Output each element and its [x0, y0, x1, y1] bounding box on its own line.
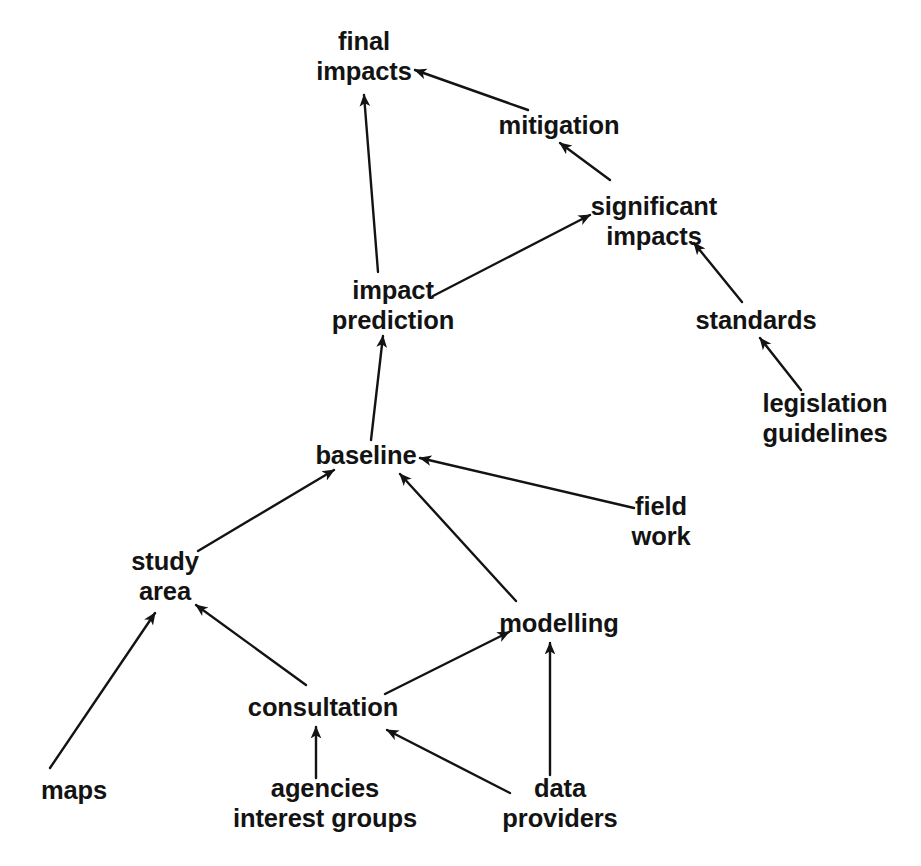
node-maps[interactable]: maps [41, 775, 107, 805]
node-mitigation[interactable]: mitigation [499, 110, 620, 140]
node-label-line1: data [534, 774, 586, 802]
node-study-area[interactable]: study area [131, 546, 199, 606]
edge-field-work-to-baseline [420, 458, 634, 508]
edge-mitigation-to-final-impacts [415, 70, 528, 110]
edge-baseline-to-impact-prediction [371, 336, 383, 440]
node-consultation[interactable]: consultation [248, 692, 398, 722]
node-label-line1: agencies [271, 774, 379, 802]
edge-consultation-to-modelling [385, 632, 509, 694]
node-label-line1: study [131, 547, 199, 575]
edge-consultation-to-study-area [196, 605, 306, 685]
node-impact-prediction[interactable]: impact prediction [332, 275, 454, 335]
node-label-line1: standards [696, 306, 817, 334]
node-label-line2: impacts [316, 56, 412, 86]
edge-study-area-to-baseline [198, 470, 334, 551]
edge-modelling-to-baseline [400, 474, 516, 601]
node-label-line1: mitigation [499, 111, 620, 139]
node-final-impacts[interactable]: final impacts [316, 26, 412, 86]
node-label-line2: prediction [332, 305, 454, 335]
node-data-providers[interactable]: data providers [502, 773, 617, 833]
diagram-canvas: final impacts mitigation significant imp… [0, 0, 921, 866]
node-label-line2: area [131, 576, 199, 606]
node-label-line1: legislation [762, 389, 887, 417]
node-label-line2: impacts [591, 221, 717, 251]
node-label-line1: final [338, 27, 390, 55]
node-label-line1: maps [41, 776, 107, 804]
node-agencies-interest-groups[interactable]: agencies interest groups [233, 773, 417, 833]
node-baseline[interactable]: baseline [315, 440, 416, 470]
node-label-line1: significant [591, 192, 717, 220]
node-label-line1: baseline [315, 441, 416, 469]
edge-maps-to-study-area [50, 613, 155, 768]
node-legislation-guidelines[interactable]: legislation guidelines [762, 388, 887, 448]
node-label-line2: work [631, 521, 690, 551]
node-modelling[interactable]: modelling [499, 608, 619, 638]
node-significant-impacts[interactable]: significant impacts [591, 191, 717, 251]
node-label-line2: providers [502, 803, 617, 833]
node-label-line1: impact [352, 276, 434, 304]
node-label-line1: consultation [248, 693, 398, 721]
edge-legislation-to-standards [760, 338, 801, 390]
node-label-line1: modelling [499, 609, 619, 637]
edge-impact-prediction-to-final-impacts [364, 95, 378, 272]
edge-significant-impacts-to-mitigation [560, 143, 610, 180]
edge-standards-to-significant-impacts [694, 243, 742, 302]
node-standards[interactable]: standards [696, 305, 817, 335]
node-field-work[interactable]: field work [631, 491, 690, 551]
edge-impact-prediction-to-significant-impacts [433, 215, 590, 296]
node-label-line2: guidelines [762, 418, 887, 448]
node-label-line1: field [635, 492, 687, 520]
node-label-line2: interest groups [233, 803, 417, 833]
